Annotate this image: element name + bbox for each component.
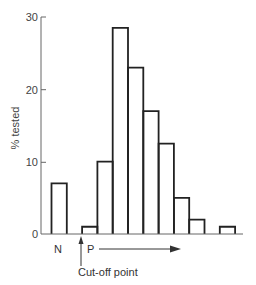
y-tick-10: 10: [26, 156, 38, 168]
histogram-chart: % tested 30 20 10 0 N P Cut-off point: [0, 0, 256, 285]
p-group-label: P: [87, 243, 94, 255]
y-axis-title: % tested: [9, 107, 21, 150]
y-tick-0: 0: [32, 228, 38, 240]
histogram-bar: [174, 198, 189, 234]
histogram-bar: [113, 28, 128, 234]
histogram-bar: [220, 227, 235, 234]
histogram-bar: [128, 68, 143, 234]
y-tick-30: 30: [26, 11, 38, 23]
histogram-bar: [189, 220, 204, 234]
histogram-bar: [97, 162, 112, 234]
n-group-label: N: [54, 243, 62, 255]
histogram-bar: [159, 144, 174, 234]
histogram-bar: [52, 183, 67, 234]
right-arrow-icon: [99, 246, 181, 253]
bars: [52, 28, 236, 234]
histogram-bar: [82, 227, 97, 234]
cutoff-point-label: Cut-off point: [78, 266, 138, 278]
y-tick-20: 20: [26, 84, 38, 96]
y-axis: 30 20 10 0: [26, 11, 46, 240]
histogram-bar: [143, 111, 158, 234]
up-arrow-icon: [79, 236, 84, 266]
